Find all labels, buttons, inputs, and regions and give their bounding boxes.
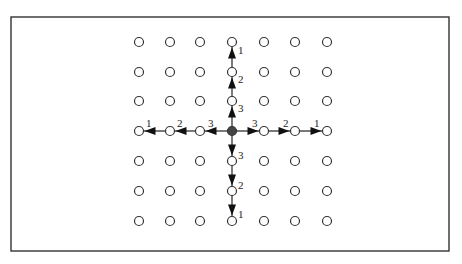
label-up-3: 3 bbox=[238, 102, 244, 114]
arrowhead-down-1-icon bbox=[228, 205, 236, 216]
label-left-1: 1 bbox=[146, 117, 152, 129]
grid-node bbox=[260, 187, 269, 196]
grid-node bbox=[291, 157, 300, 166]
grid-node bbox=[196, 97, 205, 106]
grid-node bbox=[291, 38, 300, 47]
grid-node bbox=[196, 217, 205, 226]
label-left-2: 2 bbox=[177, 117, 183, 129]
grid-node bbox=[228, 187, 237, 196]
label-right-2: 2 bbox=[283, 117, 289, 129]
label-down-1: 1 bbox=[238, 208, 244, 220]
grid-node bbox=[291, 68, 300, 77]
grid-node bbox=[260, 157, 269, 166]
grid-node bbox=[260, 127, 269, 136]
neighborhood-diagram: 3 2 1 3 2 1 3 2 1 3 2 1 bbox=[0, 0, 462, 264]
grid-node bbox=[196, 68, 205, 77]
grid-node bbox=[196, 157, 205, 166]
grid-node bbox=[135, 97, 144, 106]
grid-node bbox=[323, 38, 332, 47]
grid-node bbox=[323, 187, 332, 196]
label-down-3: 3 bbox=[238, 149, 244, 161]
arrowhead-up-3-icon bbox=[228, 107, 236, 118]
arrowhead-down-3-icon bbox=[228, 145, 236, 156]
grid-node bbox=[135, 127, 144, 136]
grid-node bbox=[135, 68, 144, 77]
grid-node bbox=[228, 217, 237, 226]
arrowhead-up-2-icon bbox=[228, 78, 236, 89]
label-right-1: 1 bbox=[314, 117, 320, 129]
grid-node bbox=[135, 187, 144, 196]
label-down-2: 2 bbox=[238, 179, 244, 191]
grid-node bbox=[260, 217, 269, 226]
grid-node bbox=[291, 187, 300, 196]
grid-node bbox=[166, 217, 175, 226]
center-node bbox=[228, 127, 237, 136]
grid-node bbox=[166, 127, 175, 136]
grid-node bbox=[135, 217, 144, 226]
label-right-3: 3 bbox=[252, 117, 258, 129]
grid-node bbox=[135, 38, 144, 47]
grid-node bbox=[323, 68, 332, 77]
label-up-2: 2 bbox=[238, 73, 244, 85]
grid-node bbox=[323, 127, 332, 136]
grid-node bbox=[166, 187, 175, 196]
arrowhead-down-2-icon bbox=[228, 175, 236, 186]
grid-node bbox=[228, 68, 237, 77]
grid-node bbox=[166, 97, 175, 106]
grid-node bbox=[260, 38, 269, 47]
grid-node bbox=[166, 68, 175, 77]
label-up-1: 1 bbox=[238, 44, 244, 56]
grid-node bbox=[323, 217, 332, 226]
grid-node bbox=[196, 127, 205, 136]
grid-node bbox=[291, 217, 300, 226]
grid-node bbox=[323, 97, 332, 106]
grid-node bbox=[291, 127, 300, 136]
grid-node bbox=[196, 38, 205, 47]
grid-node bbox=[323, 157, 332, 166]
grid-node bbox=[228, 157, 237, 166]
grid-node bbox=[166, 38, 175, 47]
grid-node bbox=[166, 157, 175, 166]
label-left-3: 3 bbox=[208, 117, 214, 129]
arrowhead-up-1-icon bbox=[228, 48, 236, 59]
grid-node bbox=[228, 97, 237, 106]
grid-node bbox=[291, 97, 300, 106]
grid-node bbox=[228, 38, 237, 47]
grid-node bbox=[196, 187, 205, 196]
grid-node bbox=[135, 157, 144, 166]
grid-node bbox=[260, 97, 269, 106]
grid-node bbox=[260, 68, 269, 77]
